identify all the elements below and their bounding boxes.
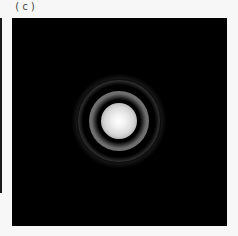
central-disk xyxy=(101,103,137,139)
adjacent-panel-edge xyxy=(0,18,2,193)
diffraction-image xyxy=(12,18,227,226)
panel-label: (c) xyxy=(14,1,38,12)
